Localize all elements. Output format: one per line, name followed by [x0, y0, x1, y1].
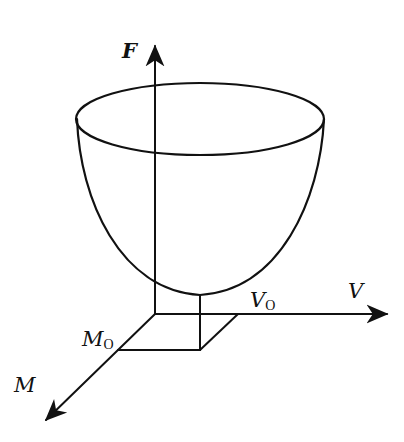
v0-projection-line — [200, 314, 238, 350]
v0-label: VO — [250, 288, 275, 313]
diagram-canvas: F V M VO MO — [0, 0, 404, 442]
bowl-rim-ellipse — [76, 83, 324, 155]
m-axis-label: M — [13, 373, 36, 397]
v-axis-label: V — [348, 279, 365, 303]
m0-label: MO — [81, 327, 114, 352]
f-axis-label: F — [121, 38, 139, 63]
